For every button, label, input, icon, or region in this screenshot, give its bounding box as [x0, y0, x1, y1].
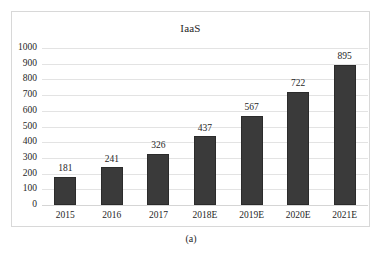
bar[interactable] [147, 154, 169, 205]
x-axis-tick-label: 2015 [56, 211, 75, 221]
x-axis-tick-label: 2020E [286, 211, 311, 221]
bar-series: 1812015241201632620174372018E5672019E722… [42, 48, 368, 205]
x-axis-tick-label: 2016 [102, 211, 121, 221]
bar[interactable] [287, 92, 309, 205]
y-axis-tick-label: 700 [23, 90, 37, 100]
figure-container: IaaS 10009008007006005004003002001000 18… [0, 0, 382, 254]
y-axis-tick-label: 300 [23, 153, 37, 163]
y-axis-tick-label: 500 [23, 122, 37, 132]
chart-title: IaaS [12, 22, 369, 34]
bar[interactable] [54, 177, 76, 205]
y-axis-tick-label: 600 [23, 106, 37, 116]
x-axis-tick-label: 2017 [149, 211, 168, 221]
plot-area: 10009008007006005004003002001000 1812015… [42, 48, 368, 205]
bar-value-label: 437 [198, 124, 212, 134]
bar-value-label: 181 [58, 164, 72, 174]
bar-value-label: 722 [291, 79, 305, 89]
bar[interactable] [101, 167, 123, 205]
y-axis-tick-label: 1000 [18, 43, 37, 53]
bar-group: 3262017 [135, 48, 182, 205]
bar-group: 1812015 [42, 48, 89, 205]
bar-value-label: 567 [244, 103, 258, 113]
x-axis-tick-label: 2019E [239, 211, 264, 221]
bar-value-label: 241 [105, 155, 119, 165]
bar-group: 7222020E [275, 48, 322, 205]
y-axis-tick-label: 100 [23, 185, 37, 195]
bar-group: 5672019E [228, 48, 275, 205]
bar-value-label: 326 [151, 141, 165, 151]
y-axis-tick-label: 0 [32, 200, 37, 210]
x-axis-tick-label: 2018E [193, 211, 218, 221]
chart-frame: IaaS 10009008007006005004003002001000 18… [11, 11, 370, 227]
bar-group: 8952021E [321, 48, 368, 205]
bar-group: 2412016 [89, 48, 136, 205]
figure-caption: (a) [0, 233, 382, 244]
bar-group: 4372018E [182, 48, 229, 205]
x-axis-tick-label: 2021E [332, 211, 357, 221]
y-axis-tick-label: 200 [23, 169, 37, 179]
y-axis-tick-label: 400 [23, 137, 37, 147]
y-axis-tick-label: 900 [23, 59, 37, 69]
bar[interactable] [241, 116, 263, 205]
y-axis-tick-label: 800 [23, 75, 37, 85]
bar[interactable] [194, 136, 216, 205]
bar-value-label: 895 [338, 52, 352, 62]
gridline [42, 205, 368, 206]
bar[interactable] [334, 65, 356, 206]
